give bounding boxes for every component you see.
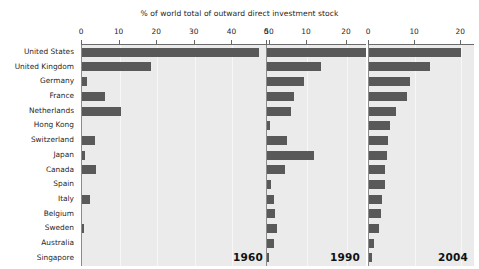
panel-year-label: 1960 — [233, 251, 263, 263]
category-label: Sweden — [0, 221, 79, 236]
x-tick-label: 0 — [79, 27, 84, 36]
bar-row — [369, 221, 474, 236]
bar-row — [82, 60, 269, 75]
bar-row — [267, 192, 366, 207]
bar — [369, 224, 379, 233]
bar — [267, 107, 291, 116]
bar-row — [267, 221, 366, 236]
bar-row — [369, 74, 474, 89]
category-label: France — [0, 89, 79, 104]
x-tick-label: 20 — [151, 27, 160, 36]
bar — [369, 195, 382, 204]
x-tick-label: 10 — [409, 27, 418, 36]
bar — [267, 180, 271, 189]
bar — [82, 92, 105, 101]
panel-year-label: 1990 — [330, 251, 360, 263]
category-label: Japan — [0, 148, 79, 163]
category-label: Hong Kong — [0, 118, 79, 133]
category-label: United States — [0, 45, 79, 60]
bar-row — [267, 104, 366, 119]
x-tick-label: 40 — [227, 27, 236, 36]
bar — [267, 62, 321, 71]
bar-row — [82, 148, 269, 163]
bar-row — [369, 133, 474, 148]
bar — [267, 121, 270, 130]
category-label: Australia — [0, 236, 79, 251]
bar — [369, 239, 374, 248]
bar-row — [369, 177, 474, 192]
bar-row — [267, 45, 366, 60]
x-tick-label: 10 — [301, 27, 310, 36]
bar-row — [82, 221, 269, 236]
x-tick-label: 10 — [114, 27, 123, 36]
bar — [82, 151, 85, 160]
category-label: Germany — [0, 74, 79, 89]
bar — [369, 77, 410, 86]
bar-row — [369, 163, 474, 178]
bar-row — [82, 74, 269, 89]
bar — [369, 180, 385, 189]
bar-row — [369, 89, 474, 104]
bar — [369, 121, 390, 130]
bar — [369, 92, 407, 101]
bar-row — [82, 45, 269, 60]
chart-figure: % of world total of outward direct inves… — [0, 0, 479, 269]
bar-row — [267, 207, 366, 222]
bar-row — [369, 236, 474, 251]
bar-row — [267, 148, 366, 163]
bar-row — [369, 45, 474, 60]
bar-row — [82, 118, 269, 133]
bar-row — [369, 207, 474, 222]
bar-row — [369, 192, 474, 207]
category-label: Spain — [0, 177, 79, 192]
x-axis: 01020304050 — [81, 27, 269, 45]
bar — [82, 195, 90, 204]
bar-row — [82, 236, 269, 251]
bar-row — [82, 192, 269, 207]
bar-row — [82, 89, 269, 104]
bar — [267, 224, 277, 233]
bar — [82, 224, 84, 233]
chart-panel-1990: 010201990 — [266, 27, 366, 266]
bar-row — [267, 89, 366, 104]
category-label: Singapore — [0, 251, 79, 266]
bar — [82, 136, 95, 145]
bar — [267, 151, 314, 160]
category-label: United Kingdom — [0, 60, 79, 75]
x-tick-label: 0 — [366, 27, 371, 36]
panel-year-label: 2004 — [438, 251, 468, 263]
bar — [267, 239, 274, 248]
bar-row — [82, 133, 269, 148]
x-tick-label: 0 — [264, 27, 269, 36]
x-tick-label: 30 — [189, 27, 198, 36]
bar-row — [267, 177, 366, 192]
bar — [267, 136, 287, 145]
bar — [369, 107, 396, 116]
bar — [82, 165, 96, 174]
bar-row — [267, 74, 366, 89]
bar — [267, 195, 274, 204]
plot-area: 1990 — [266, 45, 366, 266]
x-axis: 01020 — [368, 27, 474, 45]
bar — [369, 48, 461, 57]
plot-area: 2004 — [368, 45, 474, 266]
bar — [267, 48, 366, 57]
bar — [369, 253, 372, 262]
category-label: Switzerland — [0, 133, 79, 148]
x-tick-label: 20 — [341, 27, 350, 36]
bar-row — [369, 104, 474, 119]
chart-title: % of world total of outward direct inves… — [0, 9, 479, 18]
bar — [267, 165, 285, 174]
bar — [267, 77, 304, 86]
bar — [82, 107, 121, 116]
bar-row — [82, 177, 269, 192]
bar-row — [267, 163, 366, 178]
bar — [369, 165, 385, 174]
bar-row — [369, 118, 474, 133]
category-label: Belgium — [0, 207, 79, 222]
x-axis: 01020 — [266, 27, 366, 45]
bar — [82, 48, 259, 57]
bar-row — [267, 236, 366, 251]
bar — [82, 62, 151, 71]
category-label-column: United StatesUnited KingdomGermanyFrance… — [0, 45, 79, 266]
